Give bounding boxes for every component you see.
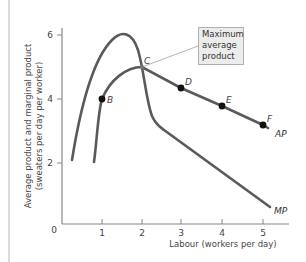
- x-axis-title: Labour (workers per day): [169, 239, 276, 249]
- x-tick-2: 2: [139, 228, 145, 238]
- y-tick-2: 2: [47, 158, 53, 168]
- point-f: [260, 122, 267, 129]
- x-tick-4: 4: [219, 228, 225, 238]
- callout-line-1: Maximum: [202, 29, 240, 40]
- mp-label: MP: [274, 206, 288, 216]
- point-d: [178, 85, 185, 92]
- y-axis-title-line1: Average product and marginal product: [23, 43, 33, 208]
- point-label-c: C: [144, 56, 151, 66]
- y-axis-title-line2: (sweaters per day per worker): [34, 62, 44, 191]
- x-tick-3: 3: [178, 228, 184, 238]
- point-label-d: D: [185, 77, 192, 87]
- max-average-product-callout: Maximum average product: [198, 27, 244, 65]
- point-b: [99, 96, 106, 103]
- callout-pointer: [142, 46, 198, 67]
- point-label-f: F: [267, 114, 273, 124]
- y-ticks: 6 4 2: [47, 30, 62, 168]
- callout-line-2: average: [202, 40, 240, 51]
- callout-line-3: product: [202, 51, 240, 62]
- x-ticks: 0 1 2 3 4 5: [51, 219, 266, 238]
- x-tick-1: 1: [99, 228, 105, 238]
- x-tick-5: 5: [260, 228, 266, 238]
- y-tick-6: 6: [47, 30, 53, 40]
- x-tick-0: 0: [51, 225, 57, 235]
- ap-curve: [94, 67, 268, 162]
- point-e: [219, 103, 226, 110]
- y-tick-4: 4: [47, 94, 53, 104]
- point-label-e: E: [226, 95, 232, 105]
- ap-label: AP: [274, 129, 287, 139]
- chart: 6 4 2 0 1 2 3 4 5 Labour (workers per da…: [0, 0, 306, 262]
- point-label-b: B: [107, 95, 113, 105]
